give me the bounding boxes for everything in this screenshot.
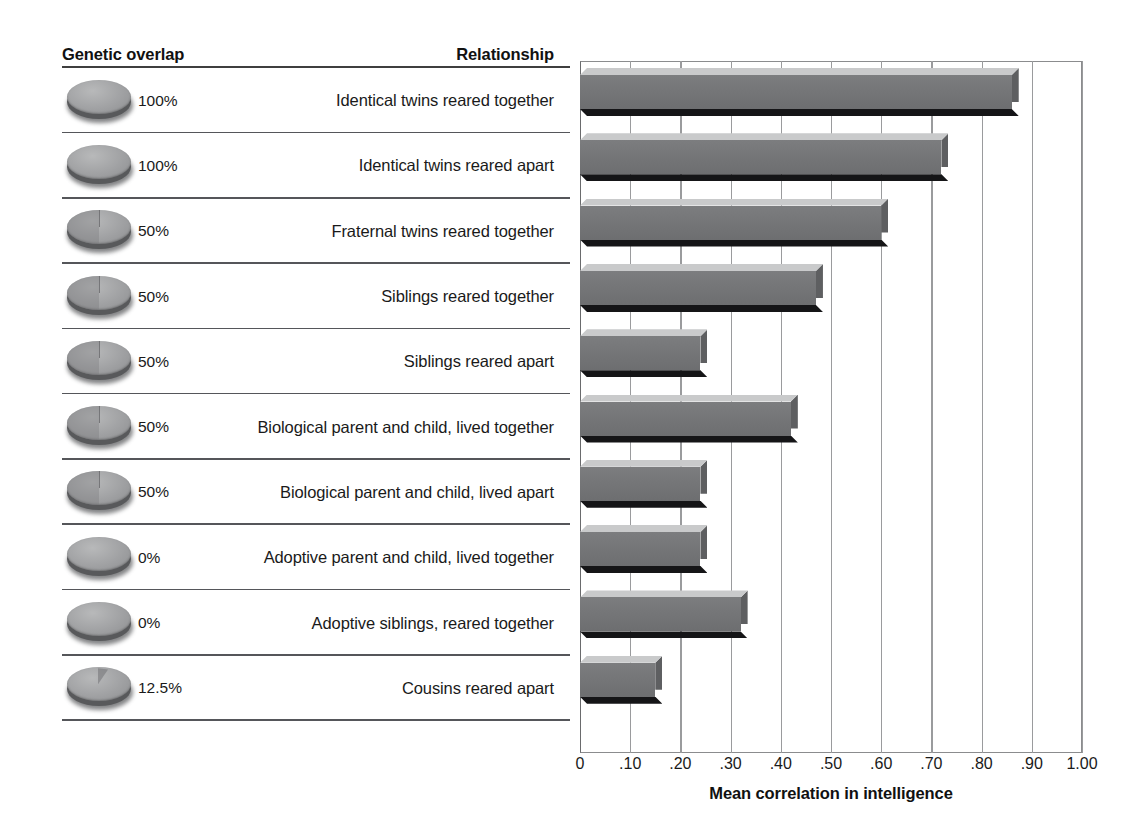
pie-top: [67, 471, 131, 505]
genetic-overlap-value: 0%: [138, 614, 210, 632]
relationship-label: Adoptive siblings, reared together: [210, 614, 570, 633]
x-axis-title: Mean correlation in intelligence: [580, 784, 1082, 803]
bar-bottom: [580, 631, 748, 638]
relationship-table: Genetic overlap Relationship 100%Identic…: [62, 36, 570, 756]
bar-bottom: [580, 697, 662, 704]
genetic-overlap-pie-icon: [64, 534, 136, 582]
relationship-label: Biological parent and child, lived apart: [210, 483, 570, 502]
genetic-overlap-value: 100%: [138, 157, 210, 175]
genetic-overlap-pie-icon: [64, 338, 136, 386]
genetic-overlap-value: 50%: [138, 483, 210, 501]
bar-bottom: [580, 240, 888, 247]
bar: [580, 336, 707, 370]
relationship-label: Siblings reared together: [210, 287, 570, 306]
genetic-overlap-value: 50%: [138, 353, 210, 371]
relationship-label: Biological parent and child, lived toget…: [210, 418, 570, 437]
pie-top: [67, 667, 131, 701]
x-tick-label: .90: [1021, 755, 1043, 773]
table-row: 12.5%Cousins reared apart: [62, 656, 570, 721]
x-axis-tick-labels: 0.10.20.30.40.50.60.70.80.901.00: [580, 755, 1082, 779]
pie-top: [67, 80, 131, 114]
bar-face: [580, 532, 700, 566]
x-tick-label: .20: [669, 755, 691, 773]
table-header-row: Genetic overlap Relationship: [62, 36, 570, 66]
x-tick-label: .40: [770, 755, 792, 773]
relationship-label: Adoptive parent and child, lived togethe…: [210, 548, 570, 567]
bar: [580, 663, 662, 697]
bar-face: [580, 336, 700, 370]
x-tick-label: .10: [619, 755, 641, 773]
bar-row: [580, 649, 1082, 714]
x-tick-label: .60: [870, 755, 892, 773]
genetic-overlap-pie-icon: [64, 403, 136, 451]
bar-bottom: [580, 174, 948, 181]
x-tick-label: .30: [719, 755, 741, 773]
bar-row: [580, 61, 1082, 126]
pie-wedge: [67, 80, 131, 114]
bar-row: [580, 126, 1082, 191]
bar: [580, 467, 707, 501]
pie-top: [67, 341, 131, 375]
pie-wedge: [67, 210, 131, 244]
bar-bottom: [580, 566, 707, 573]
bar-face: [580, 75, 1012, 109]
bar-face: [580, 140, 941, 174]
bar: [580, 206, 888, 240]
bar-face: [580, 271, 816, 305]
bar-row: [580, 518, 1082, 583]
pie-wedge: [67, 276, 131, 310]
bar: [580, 597, 748, 631]
bar-top: [580, 68, 1019, 75]
bar-row: [580, 257, 1082, 322]
relationship-label: Siblings reared apart: [210, 352, 570, 371]
row-divider: [62, 719, 570, 721]
bar: [580, 140, 948, 174]
column-header-genetic-overlap: Genetic overlap: [62, 45, 184, 64]
genetic-overlap-pie-icon: [64, 599, 136, 647]
pie-top: [67, 276, 131, 310]
x-tick-label: .50: [820, 755, 842, 773]
genetic-overlap-value: 12.5%: [138, 679, 210, 697]
pie-top: [67, 537, 131, 571]
x-tick-label: .70: [920, 755, 942, 773]
pie-top: [67, 145, 131, 179]
bar: [580, 402, 798, 436]
bar-bottom: [580, 305, 823, 312]
pie-wedge: [67, 602, 131, 636]
genetic-overlap-value: 50%: [138, 222, 210, 240]
genetic-overlap-value: 50%: [138, 418, 210, 436]
pie-wedge: [67, 341, 131, 375]
bar-top: [580, 460, 707, 467]
genetic-overlap-pie-icon: [64, 664, 136, 712]
genetic-overlap-pie-icon: [64, 468, 136, 516]
genetic-overlap-pie-icon: [64, 207, 136, 255]
genetic-overlap-value: 100%: [138, 92, 210, 110]
pie-wedge: [67, 471, 131, 505]
bar-face: [580, 467, 700, 501]
x-tick-label: 0: [576, 755, 585, 773]
genetic-overlap-pie-icon: [64, 142, 136, 190]
pie-wedge: [67, 537, 131, 571]
bar-top: [580, 264, 823, 271]
bar-top: [580, 590, 748, 597]
genetic-overlap-value: 0%: [138, 549, 210, 567]
bar-face: [580, 663, 655, 697]
bar-row: [580, 583, 1082, 648]
table-row: 50%Siblings reared apart: [62, 329, 570, 394]
bar: [580, 75, 1019, 109]
bar: [580, 532, 707, 566]
bar-top: [580, 329, 707, 336]
pie-wedge: [67, 406, 131, 440]
pie-wedge: [67, 145, 131, 179]
bar-bottom: [580, 436, 798, 443]
table-row: 0%Adoptive parent and child, lived toget…: [62, 525, 570, 590]
genetic-overlap-pie-icon: [64, 273, 136, 321]
bar-row: [580, 453, 1082, 518]
relationship-label: Identical twins reared apart: [210, 156, 570, 175]
genetic-overlap-value: 50%: [138, 288, 210, 306]
table-row: 50%Biological parent and child, lived to…: [62, 394, 570, 459]
table-row: 100%Identical twins reared together: [62, 68, 570, 133]
relationship-label: Identical twins reared together: [210, 91, 570, 110]
x-tick-label: 1.00: [1066, 755, 1097, 773]
bar-row: [580, 192, 1082, 257]
